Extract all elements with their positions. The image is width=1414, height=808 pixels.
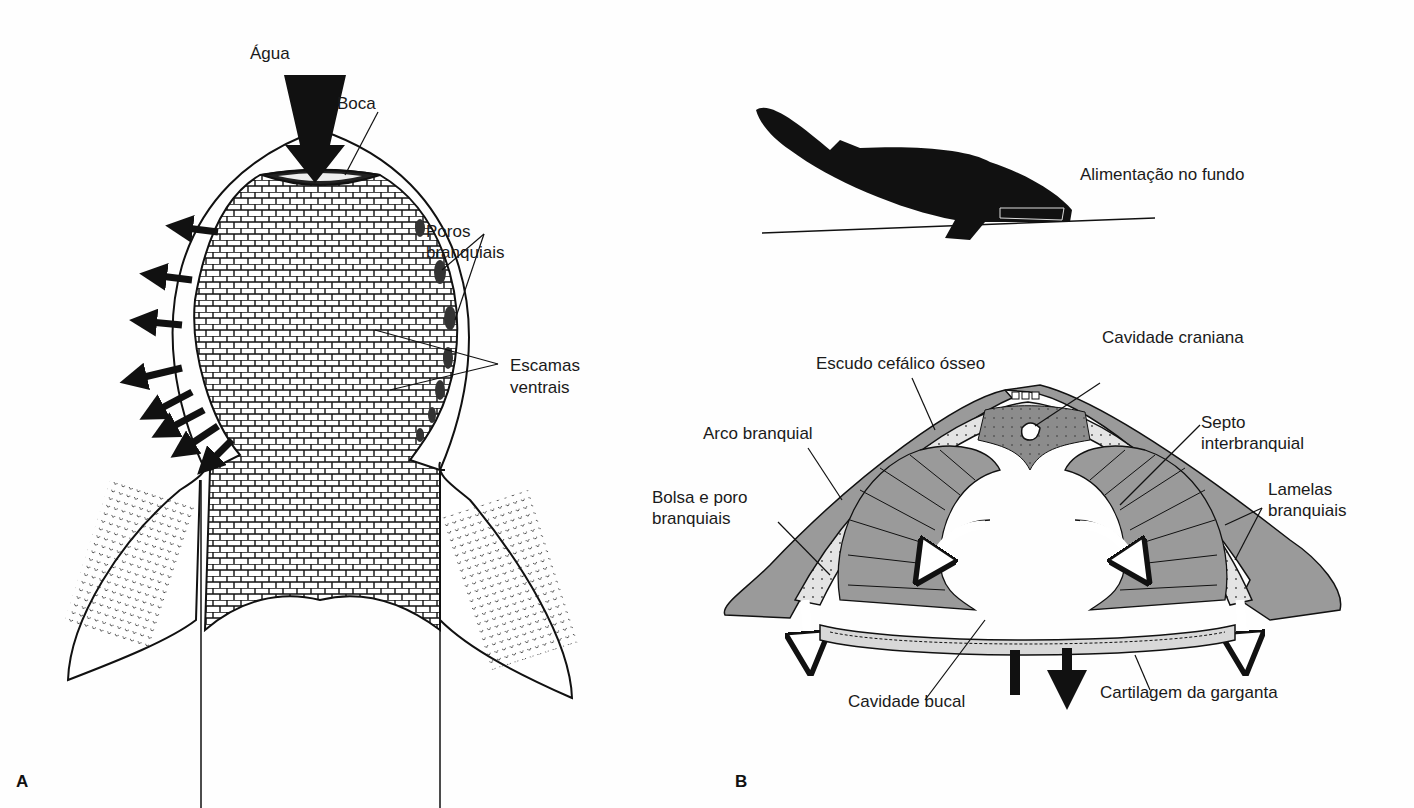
label-head-shield: Escudo cefálico ósseo [816, 354, 985, 374]
panel-letter-a: A [16, 772, 28, 792]
label-gill-lamellae-line2: branquiais [1268, 501, 1346, 521]
panel-b-illustration [700, 0, 1414, 808]
label-gill-pouch-pore-line2: branquiais [652, 509, 730, 529]
label-ventral-scales-line2: ventrais [510, 378, 570, 398]
ventral-scale-plate [194, 170, 457, 630]
throat-cartilage [820, 625, 1235, 655]
panel-a-illustration [0, 0, 700, 808]
label-mouth: Boca [337, 94, 376, 114]
label-interbranchial-septum-line1: Septo [1201, 413, 1245, 433]
label-cranial-cavity: Cavidade craniana [1102, 328, 1244, 348]
fish-silhouette [756, 108, 1072, 240]
panel-letter-b: B [735, 772, 747, 792]
label-gill-lamellae-line1: Lamelas [1268, 480, 1332, 500]
label-gill-pouch-pore-line1: Bolsa e poro [652, 488, 747, 508]
label-gill-arch: Arco branquial [703, 424, 813, 444]
figure-canvas: Água Boca Poros branquiais Escamas ventr… [0, 0, 1414, 808]
label-water: Água [250, 44, 290, 64]
label-interbranchial-septum-line2: interbranquial [1201, 434, 1304, 454]
label-gill-pores-line1: Poros [426, 222, 470, 242]
water-inflow-arrow [284, 75, 346, 183]
label-ventral-scales-line1: Escamas [510, 356, 580, 376]
label-buccal-cavity: Cavidade bucal [848, 692, 965, 712]
label-gill-pores-line2: branquiais [426, 243, 504, 263]
label-throat-cartilage: Cartilagem da garganta [1100, 683, 1278, 703]
label-bottom-feeding: Alimentação no fundo [1080, 165, 1244, 185]
